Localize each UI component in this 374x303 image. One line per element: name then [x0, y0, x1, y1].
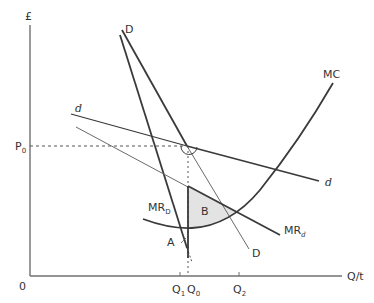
origin-label: 0 — [19, 280, 26, 293]
region-a-label: A — [167, 236, 175, 249]
mc-label: MC — [323, 68, 340, 81]
p0-label: P0 — [15, 140, 26, 155]
demand-d-upper-thin — [71, 114, 187, 146]
mr-D-label: MRD — [148, 201, 171, 216]
mc-curve — [143, 83, 333, 228]
region-b-shading — [188, 186, 237, 228]
q0-label: Q0 — [187, 283, 200, 298]
y-axis-label: £ — [25, 10, 32, 23]
region-b-label: B — [201, 205, 209, 218]
mr-D-line — [120, 35, 187, 248]
q2-label: Q2 — [233, 283, 246, 298]
q1-label: Q1 — [172, 283, 185, 298]
x-axis-label: Q/t — [347, 270, 364, 283]
demand-D-bottom-label: D — [252, 247, 260, 260]
demand-D-top-label: D — [125, 23, 133, 36]
mr-d-label: MRd — [284, 224, 306, 239]
mr-d-upper-thin — [76, 127, 188, 187]
kinked-demand-diagram: £ 0 Q/t P0 Q1 Q0 Q2 D D d d MC MRD MRd A… — [0, 0, 374, 303]
demand-d-bottom-label: d — [325, 176, 332, 189]
demand-d-top-label: d — [75, 102, 82, 115]
demand-D-upper — [122, 30, 187, 146]
demand-d — [187, 146, 319, 181]
